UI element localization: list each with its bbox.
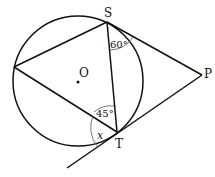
angle-label-x: x bbox=[97, 129, 104, 142]
tangent-T-to-P-extended bbox=[67, 75, 202, 168]
label-P: P bbox=[204, 67, 212, 81]
chord-left-to-S bbox=[14, 22, 107, 67]
chord-left-to-T bbox=[14, 67, 117, 132]
label-O: O bbox=[79, 66, 89, 80]
center-point bbox=[77, 81, 80, 84]
geometry-diagram: O S T P 60° 45° x bbox=[0, 0, 215, 177]
angle-label-45: 45° bbox=[96, 108, 114, 119]
label-S: S bbox=[104, 6, 112, 20]
angle-label-60: 60° bbox=[110, 39, 128, 50]
label-T: T bbox=[115, 137, 123, 151]
